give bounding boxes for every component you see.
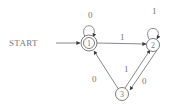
state-2-label: 2	[151, 41, 155, 50]
edge-1-2	[97, 43, 146, 44]
state-3-label: 3	[120, 90, 124, 99]
state-3: 3	[116, 88, 129, 101]
edge-3-1	[94, 51, 119, 90]
edge-2-2-label: 1	[152, 6, 157, 16]
edge-3-1-label: 0	[92, 74, 97, 84]
state-1: 1	[81, 35, 97, 51]
edge-1-2-label: 1	[120, 32, 125, 42]
edge-3-2-label: 1	[124, 64, 129, 74]
state-2: 2	[147, 39, 160, 52]
edge-2-2-loop	[148, 29, 159, 40]
state-1-label: 1	[87, 39, 91, 48]
edge-1-1-label: 0	[88, 10, 93, 20]
edge-2-3-label: 0	[142, 76, 147, 86]
start-label: START	[9, 38, 38, 48]
automaton-diagram: START 0 1 1 0 1 0 1 2 3	[0, 0, 173, 109]
